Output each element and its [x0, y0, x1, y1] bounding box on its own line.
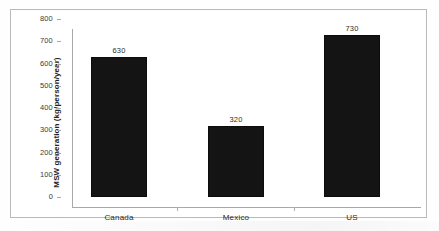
x-axis-tick — [294, 207, 295, 211]
y-axis-tick-label-wrap: 600 — [29, 60, 53, 68]
bar-value-label: 630 — [89, 46, 149, 55]
bar-value-label: 730 — [322, 24, 382, 33]
y-axis-tick-label: 200 — [29, 149, 53, 157]
y-axis-tick — [57, 19, 61, 20]
y-axis-tick — [57, 86, 61, 87]
y-axis-tick-label: 300 — [29, 126, 53, 134]
y-axis-tick-label-wrap: 500 — [29, 82, 53, 90]
y-axis-tick — [57, 108, 61, 109]
y-axis-tick-label: 700 — [29, 37, 53, 45]
y-axis-tick-label: 0 — [29, 193, 53, 201]
x-axis-line — [72, 207, 421, 208]
y-axis-tick-label: 600 — [29, 60, 53, 68]
y-axis-tick-label: 800 — [29, 15, 53, 23]
y-axis-line — [72, 29, 73, 208]
y-axis-tick-label: 100 — [29, 171, 53, 179]
y-axis-tick-label-wrap: 400 — [29, 104, 53, 112]
y-axis-tick-label: 400 — [29, 104, 53, 112]
y-axis-tick-label: 500 — [29, 82, 53, 90]
y-axis-tick-label-wrap: 700 — [29, 37, 53, 45]
x-axis-tick — [177, 207, 178, 211]
y-axis-tick — [57, 64, 61, 65]
chart-image: MSW generation (kg/person/year) 80070060… — [0, 0, 439, 231]
bar-value-label: 320 — [206, 115, 266, 124]
y-axis-tick-label-wrap: 800 — [29, 15, 53, 23]
y-axis-tick-label-wrap: 0 — [29, 193, 53, 201]
y-axis-tick — [57, 130, 61, 131]
y-axis-tick — [57, 175, 61, 176]
y-axis-tick-label-wrap: 100 — [29, 171, 53, 179]
y-axis-tick-label-wrap: 200 — [29, 149, 53, 157]
y-axis-tick — [57, 197, 61, 198]
bar-us — [324, 35, 380, 197]
chart-frame: MSW generation (kg/person/year) 80070060… — [10, 9, 427, 218]
bar-mexico — [208, 126, 264, 197]
bar-canada — [91, 57, 147, 197]
scan-artifact — [0, 221, 439, 231]
y-axis-tick — [57, 153, 61, 154]
y-axis-tick — [57, 41, 61, 42]
y-axis-tick-label-wrap: 300 — [29, 126, 53, 134]
